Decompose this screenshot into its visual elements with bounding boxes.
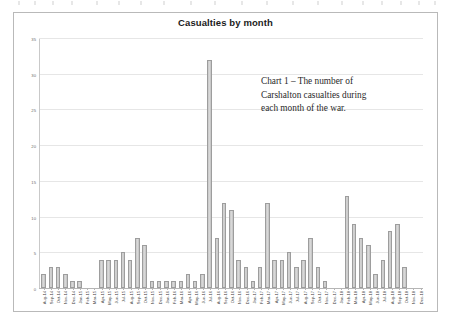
x-label-slot: Jan-17	[250, 290, 257, 324]
bar	[381, 260, 385, 288]
x-axis-tick-label: Apr-15	[99, 291, 104, 303]
x-axis-tick-label: Jan-16	[164, 291, 169, 304]
x-axis-tick-label: Nov-14	[63, 291, 68, 304]
bar-slot	[177, 39, 184, 288]
x-axis-tick-label: Apr-16	[186, 291, 191, 303]
x-label-slot: Jul-15	[120, 290, 127, 324]
y-axis-tick-label: 5	[34, 251, 36, 256]
y-axis-tick-label: 35	[31, 37, 36, 42]
x-label-slot: Dec-15	[156, 290, 163, 324]
bar	[99, 260, 103, 288]
bar	[49, 267, 53, 288]
x-axis-tick	[44, 288, 45, 290]
x-axis-tick	[355, 288, 356, 290]
x-label-slot: Aug-15	[127, 290, 134, 324]
x-axis-tick-label: Nov-15	[150, 291, 155, 304]
x-label-slot: Mar-18	[352, 290, 359, 324]
caption-line-1: Chart 1 – The number of	[261, 75, 429, 89]
bar	[388, 231, 392, 288]
bar-slot	[119, 39, 126, 288]
y-axis-tick-label: 25	[31, 108, 36, 113]
x-label-slot: May-15	[105, 290, 112, 324]
x-axis-tick	[218, 288, 219, 290]
bar	[114, 260, 118, 288]
bar	[287, 252, 291, 288]
bar-slot	[40, 39, 47, 288]
x-axis-tick	[138, 288, 139, 290]
x-label-slot: Dec-16	[243, 290, 250, 324]
x-axis-tick	[305, 288, 306, 290]
bar	[56, 267, 60, 288]
x-label-slot: Jun-15	[113, 290, 120, 324]
x-label-slot: Feb-17	[258, 290, 265, 324]
x-label-slot: Dec-18	[417, 290, 424, 324]
x-axis-tick-label: May-18	[367, 291, 372, 305]
y-axis-tick-label: 10	[31, 215, 36, 220]
x-axis-tick	[87, 288, 88, 290]
x-label-slot: May-16	[192, 290, 199, 324]
x-axis-tick-label: Sep-17	[309, 291, 314, 304]
scan-artifact	[0, 0, 452, 7]
x-label-slot: Sep-17	[308, 290, 315, 324]
x-axis-tick-label: Feb-15	[85, 291, 90, 304]
x-label-slot: Nov-16	[236, 290, 243, 324]
x-axis-tick-label: Jun-15	[114, 291, 119, 304]
x-axis-tick-label: Jun-16	[201, 291, 206, 304]
bar-slot	[192, 39, 199, 288]
x-label-slot: Aug-16	[214, 290, 221, 324]
bar	[157, 281, 161, 288]
x-label-slot: Apr-17	[272, 290, 279, 324]
bar-slot	[76, 39, 83, 288]
bar	[308, 238, 312, 288]
x-label-slot: Feb-16	[171, 290, 178, 324]
caption-line-2: Carshalton casualties during	[261, 89, 429, 103]
bar	[244, 267, 248, 288]
x-axis-tick	[276, 288, 277, 290]
x-axis-tick-label: Oct-17	[317, 291, 322, 303]
bar	[345, 196, 349, 288]
x-axis-tick	[239, 288, 240, 290]
x-axis-tick-label: Dec-15	[157, 291, 162, 304]
x-axis-tick-label: Oct-18	[404, 291, 409, 303]
x-axis-tick	[123, 288, 124, 290]
x-label-slot: Mar-15	[91, 290, 98, 324]
bar-slot	[249, 39, 256, 288]
x-axis-tick-label: Dec-16	[244, 291, 249, 304]
bar-slot	[199, 39, 206, 288]
bar	[179, 281, 183, 288]
x-axis-tick-label: Jun-17	[288, 291, 293, 304]
x-label-slot: Dec-17	[330, 290, 337, 324]
x-label-slot: Aug-14	[40, 290, 47, 324]
x-axis-tick	[406, 288, 407, 290]
bar	[251, 281, 255, 288]
bar	[41, 274, 45, 288]
x-axis-tick	[413, 288, 414, 290]
bar	[135, 238, 139, 288]
x-axis-tick	[334, 288, 335, 290]
x-axis-tick	[384, 288, 385, 290]
bar	[215, 238, 219, 288]
bar	[121, 252, 125, 288]
x-axis-tick	[174, 288, 175, 290]
x-label-slot: Nov-18	[410, 290, 417, 324]
x-axis-tick	[392, 288, 393, 290]
x-axis-tick-label: Apr-18	[360, 291, 365, 303]
bar	[402, 267, 406, 288]
x-axis-tick-label: Jul-15	[121, 291, 126, 302]
x-label-slot: Oct-17	[316, 290, 323, 324]
bar-slot	[83, 39, 90, 288]
chart-page: Casualties by month 05101520253035 Aug-1…	[0, 0, 452, 329]
bar-slot	[206, 39, 213, 288]
x-axis-tick-label: Jun-18	[375, 291, 380, 304]
bar-slot	[127, 39, 134, 288]
bar	[164, 281, 168, 288]
x-axis-tick-label: Jan-17	[251, 291, 256, 304]
bar	[280, 260, 284, 288]
bar-slot	[54, 39, 61, 288]
x-axis-tick	[145, 288, 146, 290]
x-axis-tick	[58, 288, 59, 290]
x-axis-tick-label: Aug-14	[41, 291, 46, 304]
bar	[236, 260, 240, 288]
bar	[63, 274, 67, 288]
y-axis-tick-label: 20	[31, 144, 36, 149]
